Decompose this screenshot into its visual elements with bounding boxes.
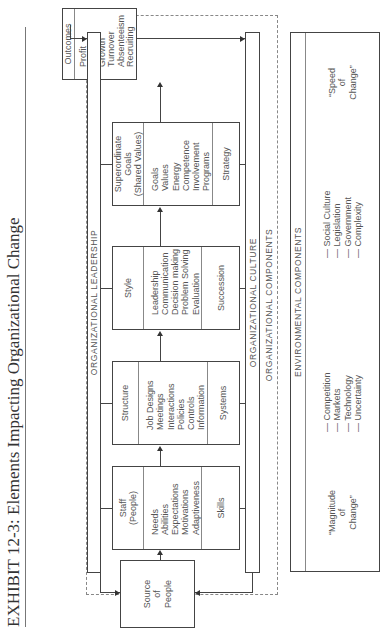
magnitude-of-change-note: “Magnitude of Change” [327, 472, 359, 553]
bidirectional-connector [101, 508, 112, 509]
component-head: Staff (People) [113, 467, 144, 549]
bidirectional-connector [101, 288, 112, 289]
bidirectional-connector [240, 164, 245, 165]
environmental-components-box: ENVIRONMENTAL COMPONENTS “Magnitude of C… [290, 32, 380, 572]
flow-connector [160, 450, 161, 466]
title-rule [25, 27, 26, 627]
bidirectional-connector [101, 403, 112, 404]
component-head: Superordinate Goals (Shared Values) [113, 123, 144, 205]
flow-connector [160, 555, 161, 560]
component-foot: Succession [202, 247, 239, 329]
component-structure: Structure Job Designs Meetings Interacti… [112, 361, 240, 445]
arrow-right-icon [157, 550, 163, 555]
arrow-right-icon [157, 446, 163, 451]
speed-of-change-note: “Speed of Change” [327, 51, 359, 114]
component-items: Leadership Communication Decision making… [144, 247, 202, 329]
outcomes-label: Outcomes [63, 9, 75, 79]
organizational-components-label: ORGANIZATIONAL COMPONENTS [262, 175, 276, 435]
component-staff: Staff (People) Needs Abilities Expectati… [112, 466, 240, 550]
component-head: Structure [113, 362, 139, 444]
leadership-label: ORGANIZATIONAL LEADERSHIP [89, 230, 99, 375]
diagram-stage: EXHIBIT 12-3: Elements Impacting Organiz… [0, 0, 390, 635]
environment-body: “Magnitude of Change” — Competition — Ma… [306, 33, 379, 571]
arrow-right-icon [157, 207, 163, 212]
exhibit-title: EXHIBIT 12-3: Elements Impacting Organiz… [4, 217, 24, 627]
environment-col2: — Social Culture — Legislation — Governm… [322, 114, 363, 288]
component-items: Job Designs Meetings Interactions Polici… [139, 362, 208, 444]
bidirectional-connector [240, 288, 245, 289]
component-foot: Systems [208, 362, 239, 444]
arrow-down-icon [240, 36, 245, 42]
flow-connector [160, 335, 161, 361]
component-style: Style Leadership Communication Decision … [112, 246, 240, 330]
source-line: Source [142, 580, 153, 609]
component-head: Style [113, 247, 144, 329]
organizational-culture-bar: ORGANIZATIONAL CULTURE [245, 32, 260, 573]
arrow-right-icon [157, 82, 163, 87]
environment-col1: — Competition — Markets — Technology — U… [322, 288, 363, 472]
component-foot: Skills [202, 467, 239, 549]
flow-connector [160, 211, 161, 246]
arrow-down-icon [82, 36, 87, 42]
arrow-up-icon [195, 590, 200, 596]
flow-connector [160, 86, 161, 122]
bidirectional-connector [240, 403, 245, 404]
outcomes-to-culture-connector [137, 38, 245, 39]
component-items: Goals Values Energy Competence Involveme… [144, 123, 213, 205]
component-foot: Strategy [213, 123, 239, 205]
culture-to-source-connector [195, 573, 253, 593]
arrow-right-icon [157, 331, 163, 336]
culture-label: ORGANIZATIONAL CULTURE [248, 238, 258, 367]
environment-header: ENVIRONMENTAL COMPONENTS [291, 33, 306, 571]
organizational-leadership-bar: ORGANIZATIONAL LEADERSHIP [87, 32, 101, 573]
outcomes-list: Profit ROI Growth Turnover Absenteeism R… [75, 9, 137, 79]
component-superordinate-goals: Superordinate Goals (Shared Values) Goal… [112, 122, 240, 206]
arrow-down-icon [115, 590, 120, 596]
source-line: People [163, 580, 174, 608]
source-line: of [152, 590, 163, 598]
bidirectional-connector [240, 508, 245, 509]
component-items: Needs Abilities Expectations Motivations… [144, 467, 202, 549]
bidirectional-connector [101, 164, 112, 165]
source-of-people-box: Source of People [120, 560, 195, 628]
outcome-item: Recruiting [126, 9, 136, 67]
